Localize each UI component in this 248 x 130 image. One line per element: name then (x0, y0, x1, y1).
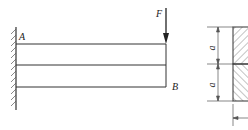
dim-label-top: a (206, 46, 217, 51)
fixed-support (11, 27, 16, 110)
force-arrow-icon (163, 8, 169, 44)
cross-section (233, 27, 248, 101)
beam (16, 44, 166, 87)
label-b: B (172, 81, 178, 92)
dim-label-bottom: a (206, 83, 217, 88)
label-a: A (18, 31, 26, 42)
label-force: F (155, 8, 163, 19)
